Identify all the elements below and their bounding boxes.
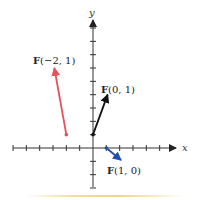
vector-label-bold: F <box>101 84 108 95</box>
vector-tail-dot <box>65 133 69 137</box>
vector-arrow-black <box>93 95 108 135</box>
vector-black: F(0, 1) <box>91 84 135 136</box>
y-axis-label: y <box>88 7 95 18</box>
axes: x y <box>13 7 188 188</box>
vector-label-black: F(0, 1) <box>101 84 135 95</box>
bottom-rule-decoration <box>25 195 185 197</box>
vector-arrow-red <box>54 68 66 135</box>
vector-arrow-blue <box>106 148 121 160</box>
vector-label-args: (1, 0) <box>114 165 141 176</box>
vector-label-bold: F <box>33 55 40 66</box>
vector-label-blue: F(1, 0) <box>107 165 141 176</box>
vector-label-red: F(−2, 1) <box>33 55 75 66</box>
vector-label-args: (−2, 1) <box>40 55 75 66</box>
vector-label-args: (0, 1) <box>108 84 135 95</box>
vector-tail-dot <box>91 133 95 137</box>
vector-field-diagram: x y F(−2, 1) F(0, 1) F(1, 0) <box>0 0 197 200</box>
x-axis-label: x <box>182 142 188 153</box>
vector-tail-dot <box>105 146 109 150</box>
vector-label-bold: F <box>107 165 114 176</box>
vector-red: F(−2, 1) <box>33 55 75 136</box>
vector-blue: F(1, 0) <box>105 146 142 176</box>
